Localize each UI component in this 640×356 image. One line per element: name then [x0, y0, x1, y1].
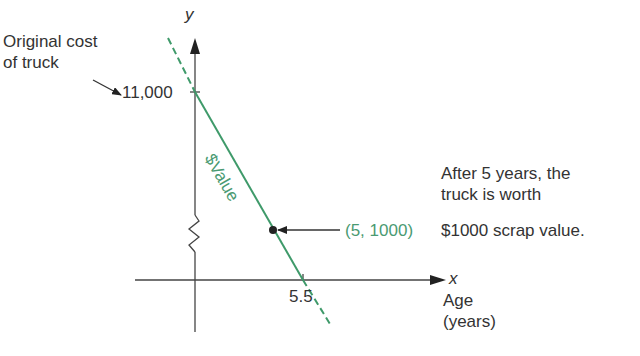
age-label-1: Age	[443, 290, 473, 311]
age-label-2: (years)	[443, 311, 496, 332]
value-line	[168, 38, 330, 324]
note-line-1: After 5 years, the	[441, 163, 570, 184]
original-cost-label-2: of truck	[3, 52, 59, 73]
original-cost-label-1: Original cost	[3, 31, 97, 52]
x-arrow-icon	[430, 275, 446, 285]
y-arrow-icon	[190, 38, 200, 54]
x-axis-label: x	[449, 268, 458, 289]
note-line-3: $1000 scrap value.	[441, 220, 585, 241]
x-axis	[135, 274, 446, 285]
y-axis-label: y	[185, 4, 194, 25]
axis-break-icon	[189, 215, 199, 252]
x-tick-label: 5.5	[289, 286, 313, 307]
y-tick-label: 11,000	[122, 82, 173, 103]
data-point	[269, 226, 277, 234]
point-label: (5, 1000)	[345, 220, 413, 241]
cost-arrow-icon	[93, 80, 121, 95]
note-line-2: truck is worth	[441, 184, 541, 205]
